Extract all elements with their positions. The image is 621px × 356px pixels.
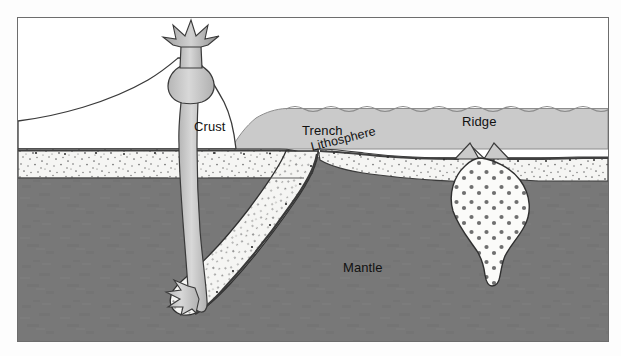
label-mantle: Mantle: [343, 260, 383, 275]
diagram-frame: Crust Trench Ridge Lithosphere Mantle: [17, 17, 609, 342]
ocean-water: [232, 109, 608, 150]
lithosphere-left-plate: [18, 149, 313, 178]
magma-chamber: [168, 65, 214, 104]
label-crust: Crust: [194, 119, 226, 134]
volcano-neck: [180, 46, 202, 68]
diagram-canvas: Crust Trench Ridge Lithosphere Mantle: [0, 0, 621, 356]
label-ridge: Ridge: [462, 114, 496, 129]
tectonics-illustration: [18, 18, 608, 341]
